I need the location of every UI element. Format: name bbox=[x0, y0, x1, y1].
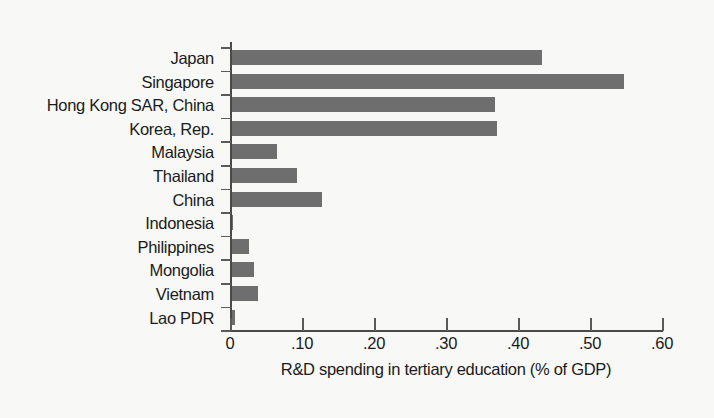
bar bbox=[232, 168, 297, 183]
y-axis-tick bbox=[221, 47, 231, 49]
y-axis-label: Malaysia bbox=[151, 141, 214, 165]
bar-row bbox=[230, 70, 662, 94]
bar bbox=[232, 215, 233, 230]
y-axis-label: Vietnam bbox=[156, 283, 214, 307]
bar-row bbox=[230, 235, 662, 259]
y-axis-label: China bbox=[172, 189, 214, 213]
y-axis-label: Hong Kong SAR, China bbox=[47, 94, 214, 118]
plot-area bbox=[230, 42, 662, 330]
bar-row bbox=[230, 188, 662, 212]
y-axis-tick bbox=[221, 165, 231, 167]
bar-row bbox=[230, 258, 662, 282]
x-axis-tick-label: .60 bbox=[651, 334, 673, 353]
y-axis-label: Mongolia bbox=[149, 259, 214, 283]
x-axis-tick-label: .40 bbox=[507, 334, 529, 353]
bar bbox=[232, 74, 624, 89]
bar-row bbox=[230, 117, 662, 141]
bar-row bbox=[230, 282, 662, 306]
bar bbox=[232, 286, 258, 301]
bar-row bbox=[230, 164, 662, 188]
y-axis-labels: JapanSingaporeHong Kong SAR, ChinaKorea,… bbox=[0, 42, 222, 330]
y-axis-label: Indonesia bbox=[145, 212, 214, 236]
y-axis-tick bbox=[221, 141, 231, 143]
x-axis-tick-label: .20 bbox=[363, 334, 385, 353]
x-axis-tick bbox=[446, 318, 448, 331]
y-axis-label: Philippines bbox=[137, 236, 214, 260]
y-axis-tick bbox=[221, 189, 231, 191]
bar-row bbox=[230, 93, 662, 117]
y-axis-tick bbox=[221, 283, 231, 285]
x-axis-tick bbox=[302, 318, 304, 331]
y-axis-tick bbox=[221, 118, 231, 120]
bar bbox=[232, 121, 497, 136]
y-axis-tick bbox=[221, 259, 231, 261]
bar bbox=[232, 144, 277, 159]
y-axis-label: Japan bbox=[171, 47, 214, 71]
y-axis-tick bbox=[221, 212, 231, 214]
y-axis-tick bbox=[221, 307, 231, 309]
x-axis-tick bbox=[518, 318, 520, 331]
x-axis-tick-label: .30 bbox=[435, 334, 457, 353]
y-axis-label: Lao PDR bbox=[149, 307, 214, 331]
y-axis-tick bbox=[221, 94, 231, 96]
bar bbox=[232, 310, 235, 325]
bar-row bbox=[230, 46, 662, 70]
y-axis-tick bbox=[221, 236, 231, 238]
x-axis-tick-label: .50 bbox=[579, 334, 601, 353]
bar-row bbox=[230, 211, 662, 235]
bar bbox=[232, 50, 542, 65]
y-axis-label: Korea, Rep. bbox=[129, 118, 214, 142]
bar-row bbox=[230, 140, 662, 164]
bar bbox=[232, 192, 322, 207]
x-axis-tick-label: 0 bbox=[226, 334, 235, 353]
x-axis-title: R&D spending in tertiary education (% of… bbox=[230, 360, 662, 379]
y-axis-label: Thailand bbox=[153, 165, 214, 189]
chart-figure: JapanSingaporeHong Kong SAR, ChinaKorea,… bbox=[0, 0, 714, 418]
x-axis-tick-label: .10 bbox=[291, 334, 313, 353]
x-axis-tick bbox=[662, 318, 664, 331]
bar bbox=[232, 262, 254, 277]
x-axis-tick bbox=[374, 318, 376, 331]
bar bbox=[232, 97, 495, 112]
y-axis-tick bbox=[221, 71, 231, 73]
bar bbox=[232, 239, 249, 254]
x-axis-tick bbox=[230, 318, 232, 331]
bar-series bbox=[230, 42, 662, 330]
y-axis-label: Singapore bbox=[141, 71, 214, 95]
x-axis-tick bbox=[590, 318, 592, 331]
x-axis-tick-labels: 0.10.20.30.40.50.60 bbox=[230, 334, 670, 358]
